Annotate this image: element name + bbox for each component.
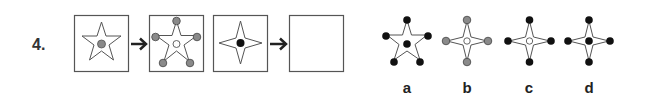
- option-b-figure[interactable]: [442, 16, 492, 66]
- arrow-right-icon: [131, 39, 146, 50]
- sequence-box-2: [150, 16, 204, 72]
- option-b-label[interactable]: b: [457, 79, 477, 96]
- option-c-label[interactable]: c: [519, 79, 539, 96]
- hollow-dot-icon: [173, 41, 180, 48]
- black-dot-icon: [237, 39, 245, 47]
- option-a-label[interactable]: a: [397, 79, 417, 96]
- sequence-box-1: [75, 16, 129, 72]
- gray-dot-icon: [98, 40, 106, 48]
- option-d-label[interactable]: d: [579, 79, 599, 96]
- option-d-figure[interactable]: [564, 16, 614, 66]
- sequence-box-answer: [290, 16, 344, 72]
- puzzle-figure: [0, 0, 647, 101]
- option-c-figure[interactable]: [504, 16, 555, 66]
- sequence-box-3: [214, 16, 268, 72]
- option-a-figure[interactable]: [382, 16, 432, 66]
- arrow-right-icon: [270, 39, 286, 50]
